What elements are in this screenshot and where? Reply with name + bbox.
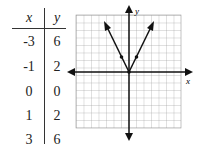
y-axis-bottom-arrow-icon	[125, 133, 133, 141]
y-axis-label: y	[134, 6, 139, 16]
x-axis-left-arrow-icon	[67, 68, 75, 76]
x-axis-right-arrow-icon	[185, 68, 193, 76]
y-axis-top-arrow-icon	[125, 5, 133, 13]
point	[135, 55, 139, 59]
x-axis-label: x	[185, 76, 190, 86]
point	[120, 55, 124, 59]
point	[127, 70, 131, 74]
coordinate-graph: y x	[0, 0, 199, 147]
